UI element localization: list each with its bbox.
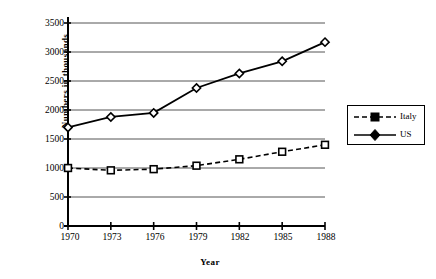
legend-label-italy: Italy	[400, 111, 417, 121]
gridlines	[68, 23, 325, 226]
axis-lines	[64, 17, 325, 226]
data-point-marker	[107, 167, 114, 174]
line-chart: Numbers in thousands Year 3500 3000 2500…	[0, 0, 436, 279]
series-italy	[65, 141, 329, 173]
data-point-marker	[150, 166, 157, 173]
data-point-marker	[322, 141, 329, 148]
legend-label-us: US	[400, 129, 412, 139]
axis-ticks	[64, 23, 325, 230]
data-point-marker	[321, 38, 329, 46]
legend-swatch-italy	[353, 108, 397, 126]
data-point-marker	[64, 123, 72, 131]
data-point-marker	[107, 113, 115, 121]
data-point-marker	[279, 148, 286, 155]
legend-item-us: US	[348, 126, 424, 144]
legend: Italy US	[347, 105, 425, 145]
data-series-layer	[64, 38, 329, 174]
data-point-marker	[192, 84, 200, 92]
data-point-marker	[236, 156, 243, 163]
data-point-marker	[65, 165, 72, 172]
legend-swatch-us	[353, 126, 397, 144]
data-point-marker	[235, 69, 243, 77]
data-point-marker	[278, 57, 286, 65]
data-point-marker	[193, 162, 200, 169]
legend-item-italy: Italy	[348, 108, 424, 126]
